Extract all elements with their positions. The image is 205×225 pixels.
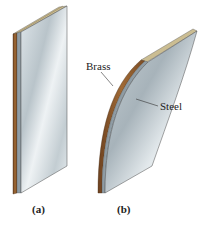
- steel-layer-a: [21, 6, 67, 193]
- caption-a: (a): [32, 203, 45, 216]
- brass-label: Brass: [86, 60, 110, 72]
- panel-a-flat-strip: [13, 6, 67, 194]
- steel-edge-a: [17, 32, 21, 193]
- steel-label: Steel: [160, 100, 182, 112]
- caption-b: (b): [117, 203, 131, 216]
- panel-b-bent-strip: [98, 29, 197, 193]
- bimetallic-strip-diagram: Brass Steel (a) (b): [0, 0, 205, 225]
- brass-layer-a: [13, 33, 17, 194]
- brass-callout: Brass: [86, 60, 113, 86]
- brass-leader-line: [101, 72, 113, 86]
